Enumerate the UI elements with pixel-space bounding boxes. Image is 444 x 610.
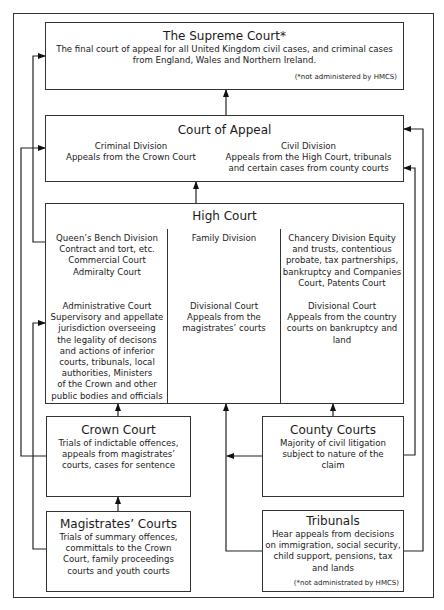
crown-court-description: Trials of indictable offences, appeals f… — [47, 438, 190, 472]
crown-court-box: Crown Court Trials of indictable offence… — [46, 416, 191, 497]
magistrates-courts-title: Magistrates’ Courts — [47, 517, 190, 532]
criminal-division: Criminal Division Appeals from the Crown… — [56, 141, 206, 163]
supreme-court-title: The Supreme Court* — [46, 29, 403, 44]
administrative-court: Administrative Court Supervisory and app… — [48, 301, 166, 402]
magistrates-courts-box: Magistrates’ Courts Trials of summary of… — [46, 511, 191, 592]
criminal-division-label: Criminal Division — [56, 141, 206, 152]
court-of-appeal-title: Court of Appeal — [46, 123, 403, 138]
magistrates-courts-description: Trials of summary offences, committals t… — [47, 532, 190, 577]
divider-right — [280, 229, 281, 404]
civil-division: Civil Division Appeals from the High Cou… — [216, 141, 401, 175]
tribunals-note: (*not administrated by HMCS) — [294, 579, 399, 588]
criminal-division-description: Appeals from the Crown Court — [56, 152, 206, 163]
tribunals-box: Tribunals Hear appeals from decisions on… — [262, 510, 404, 592]
supreme-court-note: (*not administered by HMCS) — [295, 73, 397, 82]
county-courts-box: County Courts Majority of civil litigati… — [262, 416, 404, 497]
high-court-title: High Court — [46, 209, 403, 224]
tribunals-description: Hear appeals from decisions on immigrati… — [263, 529, 403, 574]
crown-court-title: Crown Court — [47, 423, 190, 438]
court-of-appeal-box: Court of Appeal Criminal Division Appeal… — [45, 115, 404, 182]
high-court-box: High Court Queen’s Bench Division Contra… — [45, 203, 404, 404]
supreme-court-box: The Supreme Court* The final court of ap… — [45, 22, 404, 90]
family-division: Family Division — [168, 233, 280, 244]
civil-division-description: Appeals from the High Court, tribunals a… — [216, 152, 401, 174]
supreme-court-description: The final court of appeal for all United… — [46, 44, 403, 66]
county-courts-title: County Courts — [263, 423, 403, 438]
tribunals-title: Tribunals — [263, 514, 403, 529]
queens-bench-division: Queen’s Bench Division Contract and tort… — [48, 233, 166, 278]
divider-left — [167, 229, 168, 404]
family-divisional-court: Divisional Court Appeals from the magist… — [168, 301, 280, 335]
civil-division-label: Civil Division — [216, 141, 401, 152]
chancery-divisional-court: Divisional Court Appeals from the countr… — [282, 301, 402, 346]
chancery-division: Chancery Division Equity and trusts, con… — [282, 233, 402, 289]
county-courts-description: Majority of civil litigation subject to … — [263, 438, 403, 472]
